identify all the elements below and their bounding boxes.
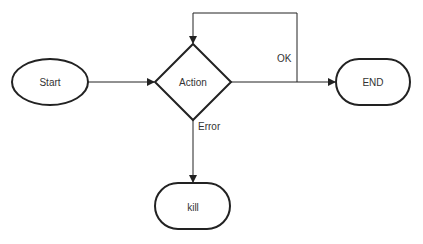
node-start-label: Start bbox=[39, 77, 60, 88]
edge-error-label: Error bbox=[198, 121, 220, 132]
node-action-label: Action bbox=[179, 77, 207, 88]
edge-ok-label: OK bbox=[277, 53, 291, 64]
node-kill-label: kill bbox=[187, 202, 199, 213]
node-end-label: END bbox=[362, 77, 383, 88]
